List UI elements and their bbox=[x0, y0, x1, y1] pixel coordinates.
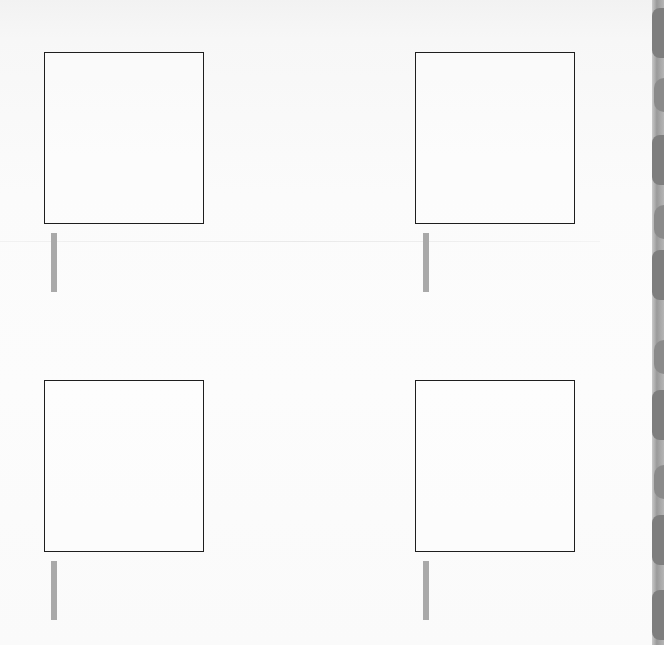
frame-top-left bbox=[44, 52, 204, 224]
binding-hole bbox=[654, 205, 664, 239]
frame-top-right bbox=[415, 52, 575, 224]
binding-edge bbox=[652, 0, 664, 645]
binding-hole bbox=[654, 340, 664, 374]
marker-bar-top-right bbox=[423, 233, 429, 292]
binding-segment bbox=[652, 135, 664, 185]
binding-hole bbox=[654, 465, 664, 499]
marker-bar-bottom-right bbox=[423, 561, 429, 620]
paper-crease bbox=[0, 241, 600, 242]
binding-segment bbox=[652, 515, 664, 565]
binding-segment bbox=[652, 590, 664, 640]
marker-bar-bottom-left bbox=[51, 561, 57, 620]
frame-bottom-right bbox=[415, 380, 575, 552]
binding-segment bbox=[652, 390, 664, 440]
binding-segment bbox=[652, 250, 664, 300]
binding-hole bbox=[654, 78, 664, 112]
frame-bottom-left bbox=[44, 380, 204, 552]
scanned-page bbox=[0, 0, 664, 645]
binding-segment bbox=[652, 8, 664, 58]
marker-bar-top-left bbox=[51, 233, 57, 292]
